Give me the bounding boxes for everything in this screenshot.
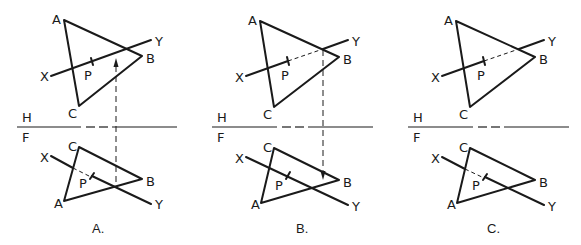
fold-label-h-c: H (413, 110, 423, 125)
line-xy-front-visible-2 (485, 177, 544, 205)
panel-a-top-view: A B C X Y P (40, 12, 163, 121)
label-b-top: B (343, 52, 352, 67)
label-c-top: C (263, 107, 272, 122)
label-b-front: B (343, 175, 352, 190)
label-a-front: A (251, 197, 260, 212)
line-xy-top (51, 40, 151, 76)
caption-c: C. (487, 221, 500, 236)
fold-label-h-a: H (22, 110, 32, 125)
line-plane-intersection-figure: A B C X Y P H F C B A X (0, 0, 581, 245)
label-y-front: Y (154, 197, 163, 212)
label-b-front: B (146, 174, 155, 189)
label-x-front: X (431, 151, 440, 166)
label-x-top: X (235, 70, 244, 85)
label-c-front: C (459, 140, 468, 155)
label-y-front: Y (547, 199, 556, 214)
label-y-top: Y (351, 34, 360, 49)
panel-b-front-view: C B A X Y P (235, 140, 360, 214)
caption-b: B. (296, 221, 308, 236)
label-p-top: P (477, 68, 485, 83)
triangle-abc-top (64, 20, 142, 106)
panel-c-top-view: A B C X Y P (431, 13, 556, 122)
panel-c-front-view: C B A X Y P (431, 140, 556, 214)
arrow-up-icon (114, 58, 119, 67)
fold-label-f-a: F (22, 130, 29, 145)
label-b-front: B (539, 175, 548, 190)
triangle-abc-front (64, 147, 142, 201)
line-xy-top-visible-2 (323, 40, 348, 49)
fold-label-f-b: F (217, 130, 224, 145)
panel-a-front-view: C B A X Y P (40, 139, 163, 212)
caption-a: A. (92, 221, 104, 236)
label-c-front: C (263, 140, 272, 155)
label-x-top: X (431, 70, 440, 85)
triangle-abc-top (260, 21, 339, 107)
line-xy-front-visible-1 (442, 157, 465, 169)
line-xy-top-hidden (288, 49, 323, 61)
line-xy-top-hidden (484, 49, 519, 61)
label-a-top: A (248, 13, 257, 28)
line-xy-front-hidden (465, 169, 484, 178)
label-a-top: A (52, 12, 61, 27)
panel-b: A B C X Y P H F C B A X Y P B. (212, 13, 373, 236)
label-p-front: P (79, 176, 87, 191)
label-p-top: P (281, 68, 289, 83)
label-x-front: X (235, 151, 244, 166)
label-c-top: C (459, 107, 468, 122)
label-p-top: P (84, 68, 92, 83)
label-p-front: P (275, 178, 283, 193)
fold-label-f-c: F (413, 130, 420, 145)
point-p-tick-top (91, 58, 93, 65)
panel-a: A B C X Y P H F C B A X (17, 12, 177, 236)
label-y-top: Y (154, 34, 163, 49)
point-p-tick-top (483, 57, 485, 65)
label-p-front: P (472, 178, 480, 193)
line-xy-top-visible-2 (519, 40, 544, 49)
label-b-top: B (539, 52, 548, 67)
point-p-tick-top (287, 57, 289, 65)
label-c-top: C (68, 106, 77, 121)
label-x-front: X (40, 150, 49, 165)
label-x-top: X (40, 69, 49, 84)
label-a-front: A (447, 197, 456, 212)
panel-c: A B C X Y P H F C B A X Y P C. (408, 13, 569, 236)
panel-b-top-view: A B C X Y P (235, 13, 360, 122)
label-y-top: Y (547, 34, 556, 49)
label-a-top: A (444, 13, 453, 28)
label-y-front: Y (351, 199, 360, 214)
label-b-top: B (146, 51, 155, 66)
label-c-front: C (68, 139, 77, 154)
label-a-front: A (54, 196, 63, 211)
line-xy-front-visible-1 (51, 156, 73, 168)
triangle-abc-top (456, 21, 535, 107)
fold-label-h-b: H (217, 110, 227, 125)
